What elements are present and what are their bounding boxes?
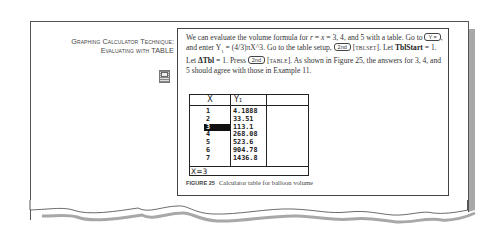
- page-shadow: [468, 29, 475, 216]
- figure-caption-text: Calculator table for balloon volume: [219, 179, 313, 186]
- figure-label: FIGURE 25: [186, 180, 215, 186]
- torn-page-edge: [28, 200, 478, 225]
- technique-heading-line1: Graphing Calculator Technique:: [40, 37, 174, 46]
- table-header: X Y₁: [190, 95, 308, 106]
- technique-heading: Graphing Calculator Technique: Evaluatin…: [40, 37, 174, 55]
- technique-box: We can evaluate the volume formula for r…: [177, 28, 449, 196]
- 2nd-key: 2nd: [334, 43, 351, 51]
- table-status-line: X=3: [190, 166, 309, 176]
- technique-heading-line2: Evaluating with TABLE: [40, 46, 174, 55]
- figure-caption: FIGURE 25Calculator table for balloon vo…: [186, 179, 313, 186]
- table-row: 71436.8: [190, 155, 308, 163]
- table-rows: 14.1888 233.51 3113.1 4268.08 5523.6 690…: [190, 108, 308, 163]
- y-equals-key: Y =: [424, 33, 440, 41]
- instruction-paragraph: We can evaluate the volume formula for r…: [186, 33, 444, 76]
- column-header-y1: Y₁: [234, 95, 242, 105]
- calculator-table-screen: X Y₁ 14.1888 233.51 3113.1 4268.08 5523.…: [189, 94, 309, 176]
- calculator-icon: [159, 70, 170, 83]
- 2nd-key: 2nd: [248, 56, 265, 64]
- column-header-x: X: [190, 95, 230, 105]
